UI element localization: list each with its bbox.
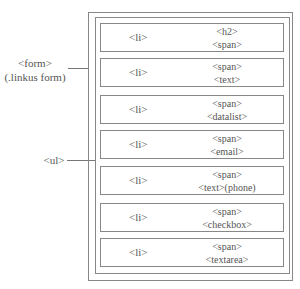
li-line1: <span> — [171, 132, 283, 145]
form-annotation: <form> (.linkus form) — [2, 56, 68, 84]
li-line1: <span> — [171, 168, 283, 181]
li-content: <h2> <span> — [171, 25, 283, 51]
ul-annotation-tag: <ul> — [42, 153, 66, 167]
ul-annotation: <ul> — [42, 153, 66, 167]
li-line1: <span> — [171, 60, 283, 73]
list-item: <li> <span> <textarea> — [100, 238, 284, 267]
list-item: <li> <span> <checkbox> — [100, 203, 284, 232]
li-content: <span> <checkbox> — [171, 205, 283, 231]
form-annotation-selector: (.linkus form) — [2, 70, 68, 84]
list-item: <li> <h2> <span> — [100, 23, 284, 52]
form-annotation-tag: <form> — [2, 56, 68, 70]
list-item: <li> <span> <datalist> — [100, 95, 284, 124]
li-content: <span> <email> — [171, 132, 283, 158]
form-connector-line — [68, 68, 89, 69]
list-item: <li> <span> <text> — [100, 58, 284, 87]
li-tag: <li> — [129, 246, 148, 258]
li-content: <span> <text>(phone) — [171, 168, 283, 194]
li-line1: <span> — [171, 240, 283, 253]
li-line2: <email> — [171, 145, 283, 158]
li-line2: <text>(phone) — [171, 181, 283, 194]
li-line1: <h2> — [171, 25, 283, 38]
li-content: <span> <datalist> — [171, 97, 283, 123]
list-item: <li> <span> <email> — [100, 130, 284, 159]
li-content: <span> <text> — [171, 60, 283, 86]
li-line1: <span> — [171, 205, 283, 218]
li-line2: <datalist> — [171, 110, 283, 123]
li-line2: <text> — [171, 73, 283, 86]
li-line1: <span> — [171, 97, 283, 110]
li-tag: <li> — [129, 211, 148, 223]
li-tag: <li> — [129, 66, 148, 78]
li-tag: <li> — [129, 31, 148, 43]
li-line2: <checkbox> — [171, 218, 283, 231]
li-line2: <span> — [171, 38, 283, 51]
li-content: <span> <textarea> — [171, 240, 283, 266]
li-tag: <li> — [129, 174, 148, 186]
li-line2: <textarea> — [171, 253, 283, 266]
li-tag: <li> — [129, 138, 148, 150]
list-item: <li> <span> <text>(phone) — [100, 166, 284, 195]
li-tag: <li> — [129, 103, 148, 115]
